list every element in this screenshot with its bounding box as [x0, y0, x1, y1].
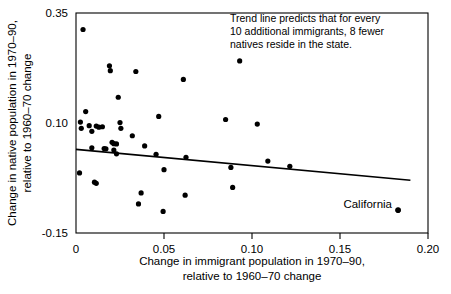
- data-point: [142, 143, 147, 148]
- data-point: [228, 165, 233, 170]
- x-axis-title-line-2: relative to 1960–70 change: [183, 270, 322, 282]
- y-axis-tick-labels: 0.350.10-0.15: [42, 7, 68, 239]
- data-point: [107, 63, 112, 68]
- y-tick-label-0: 0.35: [46, 7, 68, 19]
- y-axis-title-line-2: relative to 1960–70 change: [21, 54, 33, 193]
- data-point: [108, 68, 113, 73]
- data-point: [230, 185, 235, 190]
- data-point: [136, 201, 141, 206]
- y-axis-title-line-1: Change in native population in 1970–90,: [6, 20, 18, 226]
- x-tick-label-3: 0.15: [329, 243, 351, 255]
- data-point: [153, 152, 158, 157]
- data-point: [94, 181, 99, 186]
- data-point: [89, 129, 94, 134]
- y-axis-title: Change in native population in 1970–90, …: [6, 20, 33, 226]
- data-point: [79, 126, 84, 131]
- data-point: [118, 126, 123, 131]
- data-points-group: [77, 27, 401, 214]
- chart-canvas: 00.050.100.150.20 0.350.10-0.15 Trend li…: [0, 0, 451, 294]
- data-point: [116, 95, 121, 100]
- data-point: [183, 155, 188, 160]
- california-data-point: [395, 207, 401, 213]
- data-point: [156, 114, 161, 119]
- x-axis-title: Change in immigrant population in 1970–9…: [139, 255, 365, 282]
- data-point: [183, 193, 188, 198]
- data-point: [255, 122, 260, 127]
- data-point: [111, 147, 116, 152]
- california-callout-label: California: [343, 198, 392, 210]
- data-point: [78, 120, 83, 125]
- data-point: [77, 170, 82, 175]
- data-point: [130, 133, 135, 138]
- x-axis-title-line-1: Change in immigrant population in 1970–9…: [139, 255, 365, 267]
- y-tick-label-1: 0.10: [46, 117, 68, 129]
- trend-note-line-3: natives reside in the state.: [230, 38, 352, 50]
- data-point: [103, 146, 108, 151]
- x-tick-label-1: 0.05: [153, 243, 175, 255]
- data-point: [114, 141, 119, 146]
- data-point: [89, 145, 94, 150]
- data-point: [181, 77, 186, 82]
- data-point: [87, 123, 92, 128]
- data-point: [161, 209, 166, 214]
- data-point: [237, 58, 242, 63]
- data-point: [80, 27, 85, 32]
- data-point: [100, 124, 105, 129]
- trend-line: [76, 149, 410, 180]
- trend-note-line-1: Trend line predicts that for every: [230, 12, 381, 24]
- scatter-plot-figure: 00.050.100.150.20 0.350.10-0.15 Trend li…: [0, 0, 451, 294]
- x-tick-label-2: 0.10: [241, 243, 263, 255]
- x-axis-tick-labels: 00.050.100.150.20: [73, 243, 439, 255]
- data-point: [161, 167, 166, 172]
- data-point: [287, 164, 292, 169]
- data-point: [223, 117, 228, 122]
- data-point: [139, 190, 144, 195]
- x-axis-ticks: [164, 233, 428, 239]
- data-point: [83, 109, 88, 114]
- data-point: [117, 120, 122, 125]
- x-tick-label-0: 0: [73, 243, 79, 255]
- x-tick-label-4: 0.20: [417, 243, 439, 255]
- data-point: [265, 158, 270, 163]
- y-tick-label-2: -0.15: [42, 227, 68, 239]
- data-point: [133, 69, 138, 74]
- trend-note-line-2: 10 additional immigrants, 8 fewer: [230, 25, 385, 37]
- trend-note-annotation: Trend line predicts that for every 10 ad…: [230, 12, 385, 50]
